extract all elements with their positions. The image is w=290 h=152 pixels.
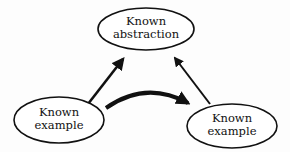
node-example-left-line2: example (14, 119, 104, 132)
curved-arrow-left-to-right (106, 93, 188, 108)
node-abstraction-line2: abstraction (98, 28, 194, 41)
arrow-left-to-abstraction (88, 59, 123, 104)
node-abstraction-label: Known abstraction (98, 15, 194, 41)
node-example-left-label: Known example (14, 106, 104, 132)
node-example-right-line2: example (187, 125, 277, 138)
diagram-canvas: Known abstraction Known example Known ex… (0, 0, 290, 152)
node-example-right-label: Known example (187, 112, 277, 138)
